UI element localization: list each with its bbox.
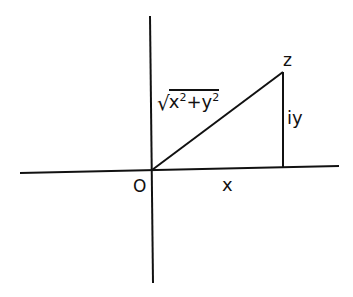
imaginary-part-label: iy (287, 109, 303, 127)
imaginary-axis (150, 16, 153, 283)
real-part-label: x (222, 176, 233, 194)
y-base: y (202, 91, 213, 112)
y-exponent: 2 (212, 91, 219, 104)
modulus-formula: √ x2+y2 (157, 82, 219, 114)
real-axis (20, 166, 339, 173)
complex-plane-diagram (0, 0, 353, 297)
point-z-label: z (283, 52, 292, 69)
x-base: x (169, 91, 180, 112)
origin-label: O (133, 178, 146, 195)
radicand: x2+y2 (169, 89, 219, 111)
plus-sign: + (186, 91, 201, 112)
